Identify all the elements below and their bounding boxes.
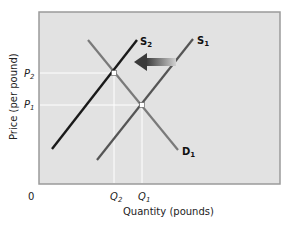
y-tick-p2: P2 — [24, 68, 35, 81]
equilibrium-point-e1 — [140, 103, 145, 108]
plot-area — [39, 12, 280, 184]
origin-label: 0 — [28, 191, 34, 202]
x-axis-title: Quantity (pounds) — [123, 206, 214, 217]
x-tick-q2: Q2 — [110, 191, 123, 204]
equilibrium-point-e2 — [112, 71, 117, 76]
x-tick-q1: Q1 — [138, 191, 150, 204]
y-axis-title: Price (per pound) — [8, 53, 19, 140]
supply-demand-chart: S2 S1 D1 P2 P1 0 Q2 Q1 Quantity (pounds)… — [0, 0, 289, 228]
y-tick-p1: P1 — [24, 99, 35, 112]
